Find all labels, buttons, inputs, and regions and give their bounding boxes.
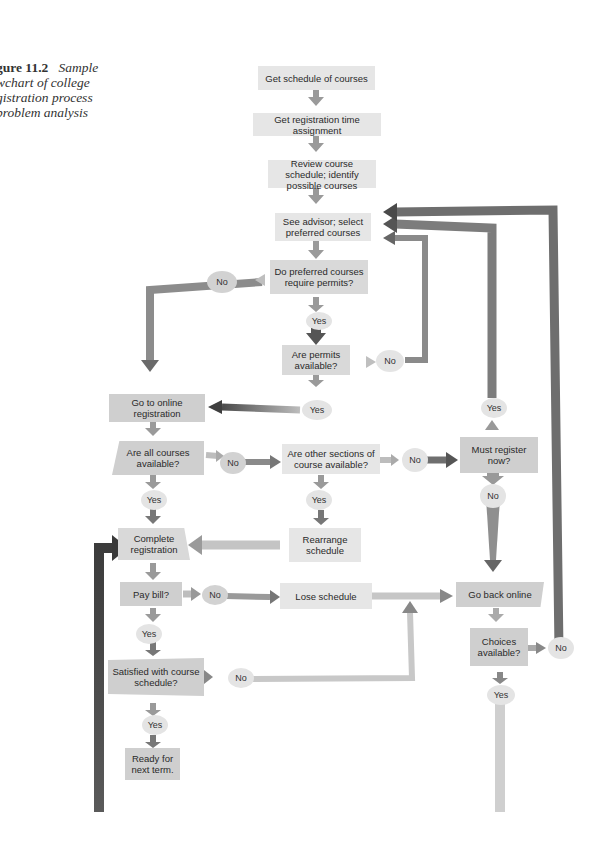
bubble-yes-pay-bill: Yes: [136, 624, 162, 644]
node-ready-next-term: Ready for next term.: [125, 748, 180, 780]
node-pay-bill: Pay bill?: [120, 582, 182, 606]
node-must-register: Must register now?: [460, 437, 538, 473]
bubble-no-permits: No: [376, 350, 404, 372]
node-permits-available: Are permits available?: [282, 345, 350, 375]
bubble-no-require-permits: No: [207, 271, 237, 293]
node-go-back-online: Go back online: [456, 582, 544, 607]
node-require-permits: Do preferred courses require permits?: [270, 260, 368, 294]
node-go-online: Go to online registration: [109, 394, 205, 422]
bubble-no-must-register: No: [480, 484, 506, 508]
node-complete-registration: Complete registration: [118, 528, 190, 560]
node-rearrange-schedule: Rearrange schedule: [289, 528, 361, 562]
node-review-schedule: Review course schedule; identify possibl…: [268, 160, 376, 188]
bubble-yes-all-available: Yes: [141, 490, 167, 510]
node-lose-schedule: Lose schedule: [280, 583, 372, 609]
bubble-no-choices: No: [548, 637, 574, 659]
bubble-yes-other-sections: Yes: [306, 490, 332, 510]
bubble-yes-require-permits: Yes: [306, 312, 332, 330]
node-get-schedule: Get schedule of courses: [258, 66, 375, 90]
bubble-yes-permits: Yes: [302, 400, 332, 420]
bubble-no-pay-bill: No: [202, 585, 228, 605]
bubble-no-all-available: No: [220, 452, 246, 474]
bubble-yes-must-register: Yes: [481, 398, 507, 418]
node-see-advisor: See advisor; select preferred courses: [275, 213, 371, 241]
node-get-time-assignment: Get registration time assignment: [253, 113, 381, 136]
bubble-no-satisfied: No: [228, 668, 254, 688]
bubble-yes-satisfied: Yes: [142, 715, 168, 735]
node-all-courses-available: Are all courses available?: [112, 441, 204, 475]
node-satisfied: Satisfied with course schedule?: [108, 658, 204, 696]
node-other-sections: Are other sections of course available?: [282, 444, 380, 474]
bubble-yes-choices: Yes: [487, 685, 515, 705]
node-choices-available: Choices available?: [470, 628, 528, 666]
bubble-no-other-sections: No: [402, 448, 428, 472]
